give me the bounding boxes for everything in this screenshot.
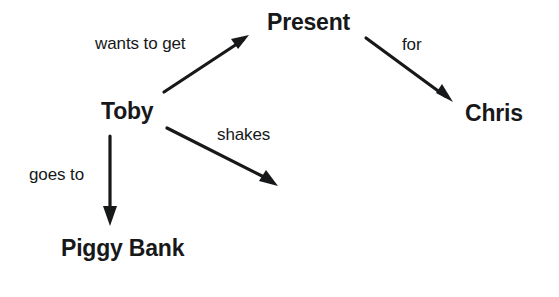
diagram-canvas: Present Toby Chris Piggy Bank wants to g…	[0, 0, 559, 297]
arrowhead-toby-shakes	[259, 170, 278, 186]
edge-toby-to-piggy	[103, 136, 117, 226]
arrowhead-present-chris	[436, 84, 453, 102]
arrowhead-toby-piggy	[103, 206, 117, 226]
edge-label-wants-to-get: wants to get	[95, 35, 185, 52]
edge-label-for: for	[402, 36, 422, 53]
edge-label-shakes: shakes	[217, 126, 270, 143]
edge-label-goes-to: goes to	[29, 166, 84, 183]
node-label-present[interactable]: Present	[267, 11, 350, 34]
node-label-piggy-bank[interactable]: Piggy Bank	[61, 237, 184, 260]
node-label-chris[interactable]: Chris	[465, 102, 523, 125]
node-label-toby[interactable]: Toby	[101, 100, 153, 123]
